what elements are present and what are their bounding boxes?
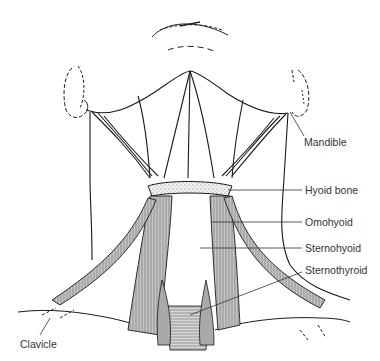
label-sternothyroid: Sternothyroid [305,264,367,276]
label-clavicle: Clavicle [20,338,57,350]
label-mandible: Mandible [304,136,347,148]
left-ear-outline [64,66,88,117]
right-ear-outline [292,70,309,116]
label-sternohyoid: Sternohyoid [305,242,361,254]
hyoid-bone [148,182,232,197]
right-sternothyroid [199,280,214,345]
chin-outline [152,22,228,51]
label-omohyoid: Omohyoid [305,216,353,228]
label-hyoid-bone: Hyoid bone [305,184,358,196]
neck-anatomy-illustration [0,0,380,361]
